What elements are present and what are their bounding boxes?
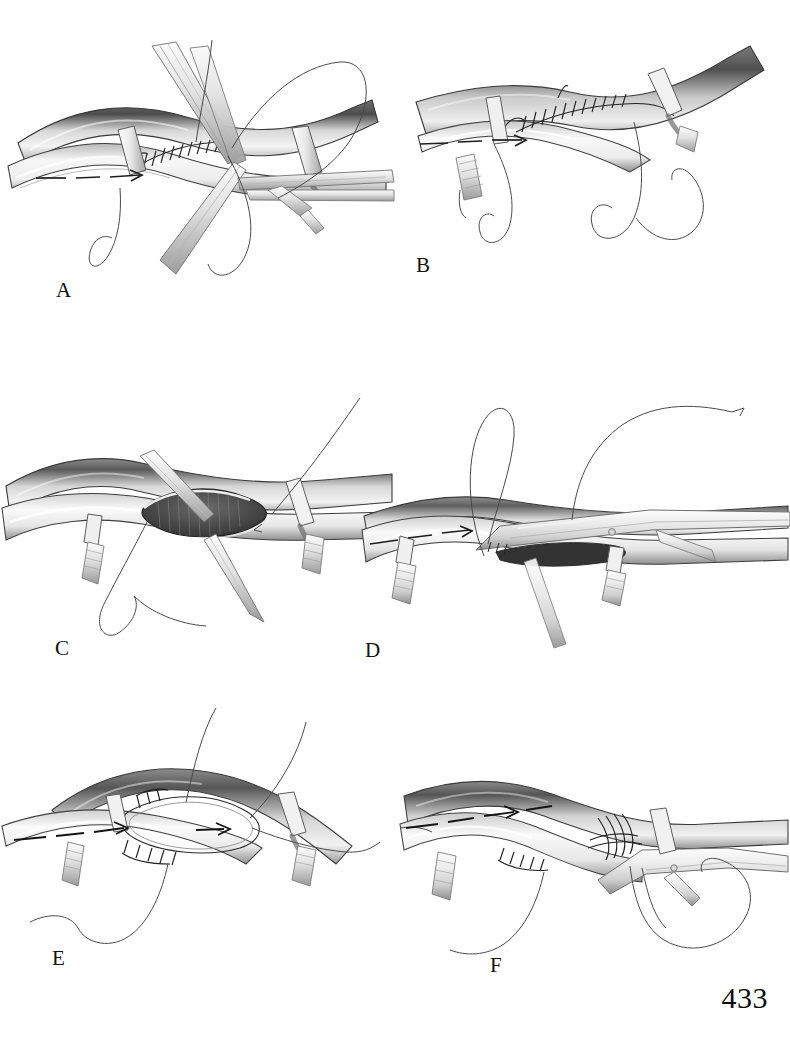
- page-number: 433: [722, 981, 769, 1015]
- panel-label-e: E: [52, 948, 65, 969]
- tourniquet-clip: [392, 562, 416, 604]
- panel-e-illustration: [0, 700, 400, 950]
- panel-label-f: F: [490, 955, 502, 976]
- tourniquet-clip: [292, 846, 316, 886]
- panel-a-illustration: [0, 38, 400, 288]
- figure-page: A: [0, 0, 790, 1045]
- panel-f-illustration: [398, 700, 790, 960]
- panel-d-illustration: [360, 380, 790, 650]
- needle: [572, 406, 744, 520]
- tourniquet-clip: [302, 534, 324, 574]
- tourniquet-clip: [602, 570, 626, 606]
- panel-label-c: C: [55, 638, 70, 659]
- panel-b-illustration: [398, 40, 790, 280]
- tourniquet-clip: [62, 842, 84, 886]
- forceps: [204, 534, 264, 622]
- panel-c-illustration: [0, 398, 400, 648]
- tourniquet-clip: [82, 542, 104, 584]
- panel-label-b: B: [416, 255, 431, 276]
- clamp: [598, 848, 788, 906]
- tourniquet-clip: [432, 852, 456, 900]
- forceps: [524, 558, 566, 648]
- panel-label-d: D: [365, 640, 381, 661]
- panel-label-a: A: [56, 280, 72, 301]
